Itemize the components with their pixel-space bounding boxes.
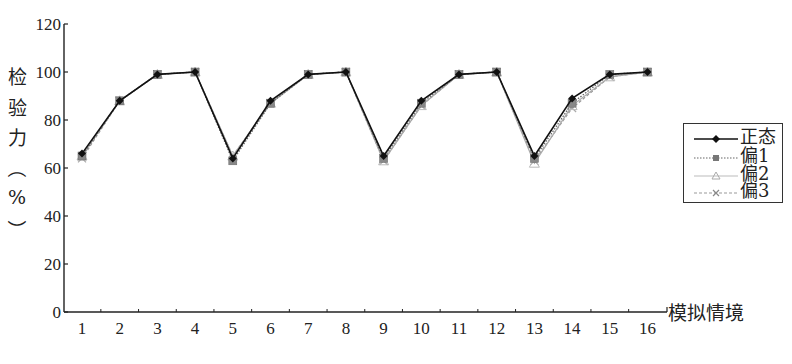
series-line [82, 72, 648, 163]
x-tick-label: 3 [153, 319, 162, 338]
x-tick-label: 1 [78, 319, 87, 338]
x-marker-icon [694, 184, 738, 202]
x-tick-label: 12 [488, 319, 505, 338]
x-tick-label: 10 [413, 319, 430, 338]
y-tick-label: 20 [44, 255, 61, 274]
y-tick-label: 100 [36, 63, 62, 82]
legend: 正态 偏1 偏2 偏3 [683, 123, 783, 203]
y-tick-label: 120 [36, 15, 62, 34]
series-group [77, 67, 653, 167]
y-axis-title-char: % [6, 186, 28, 208]
axes: 02040608010012012345678910111213141516 [36, 15, 668, 338]
x-tick-label: 7 [304, 319, 313, 338]
diamond-marker-icon [694, 130, 738, 148]
x-tick-label: 13 [526, 319, 543, 338]
y-tick-label: 80 [44, 111, 61, 130]
legend-label: 偏3 [740, 181, 769, 201]
x-tick-label: 15 [601, 319, 618, 338]
y-tick-label: 40 [44, 207, 61, 226]
x-tick-label: 9 [379, 319, 388, 338]
square-marker-icon [694, 149, 738, 167]
y-axis-title-char: 力 [6, 123, 28, 150]
legend-item-skew3: 偏3 [684, 184, 784, 202]
x-tick-label: 4 [191, 319, 200, 338]
x-axis-title: 模拟情境 [668, 298, 744, 325]
y-axis-title-char: 检 [6, 62, 28, 89]
series-line [82, 72, 648, 158]
y-tick-label: 0 [53, 303, 62, 322]
x-tick-label: 6 [266, 319, 275, 338]
x-tick-label: 16 [639, 319, 656, 338]
legend-label: 正态 [740, 127, 776, 147]
y-axis-title-char: （ [4, 158, 31, 180]
x-tick-label: 2 [115, 319, 124, 338]
x-tick-label: 14 [564, 319, 582, 338]
y-tick-label: 60 [44, 159, 61, 178]
x-tick-label: 8 [342, 319, 351, 338]
triangle-marker-icon [694, 167, 738, 185]
y-axis-title-char: 验 [6, 93, 28, 120]
x-tick-label: 11 [451, 319, 467, 338]
x-tick-label: 5 [229, 319, 238, 338]
y-axis-title-char: ） [4, 219, 31, 241]
